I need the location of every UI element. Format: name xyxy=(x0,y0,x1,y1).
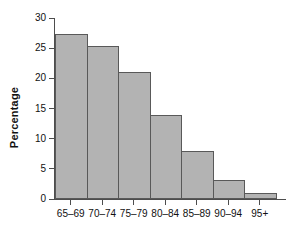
bar xyxy=(150,115,183,199)
y-axis-tick-label: 15 xyxy=(22,104,46,114)
y-axis-tick xyxy=(49,168,54,169)
x-axis-tick xyxy=(228,200,229,205)
bar-chart: Percentage 051015202530 65–6970–7475–798… xyxy=(0,0,300,235)
bar xyxy=(181,151,214,199)
y-axis-tick xyxy=(49,48,54,49)
x-axis-tick-label: 95+ xyxy=(239,208,281,219)
x-axis-tick xyxy=(133,200,134,205)
bar xyxy=(55,34,88,199)
y-axis-tick xyxy=(49,108,54,109)
x-axis-line xyxy=(54,199,286,200)
y-axis-tick-label: 25 xyxy=(22,43,46,53)
y-axis-tick-label: 10 xyxy=(22,134,46,144)
y-axis-tick-label: 20 xyxy=(22,73,46,83)
bar xyxy=(244,193,277,199)
bar xyxy=(118,72,151,199)
y-axis-tick-label: 5 xyxy=(22,164,46,174)
x-axis-tick xyxy=(165,200,166,205)
x-axis-tick xyxy=(259,200,260,205)
y-axis-tick xyxy=(49,138,54,139)
plot-area xyxy=(55,18,285,199)
y-axis-tick xyxy=(49,78,54,79)
x-axis-tick xyxy=(70,200,71,205)
x-axis-tick xyxy=(196,200,197,205)
x-axis-tick xyxy=(102,200,103,205)
y-axis-tick-label: 30 xyxy=(22,13,46,23)
y-axis-tick xyxy=(49,18,54,19)
y-axis-tick-label: 0 xyxy=(22,194,46,204)
bar xyxy=(213,180,246,199)
bar xyxy=(87,46,120,199)
